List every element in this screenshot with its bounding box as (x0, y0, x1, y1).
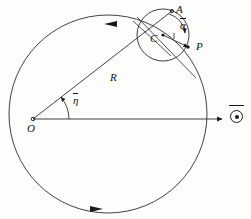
label-point-C: C (150, 33, 157, 44)
label-point-O: O (27, 123, 35, 134)
angle-eta-overbar-text: η (73, 95, 78, 106)
omega-vector-overbar (229, 105, 244, 106)
epicycle-radius-CP (163, 35, 188, 47)
label-radius-R: R (110, 72, 117, 83)
point-P-marker (186, 45, 189, 48)
geometry-figure: A C P R O α η (0, 0, 251, 219)
angle-alpha-overbar-text: α (180, 20, 186, 31)
figure-canvas (0, 0, 251, 219)
radius-line-OC (33, 11, 172, 119)
deferent-direction-arrow-bottom (90, 206, 103, 212)
label-point-A: A (176, 4, 183, 15)
label-point-P: P (196, 41, 203, 52)
point-C-marker (161, 33, 164, 36)
angle-eta-arc (61, 97, 69, 119)
label-angle-eta: η (73, 95, 78, 106)
deferent-circle (9, 15, 207, 213)
omega-out-of-page-icon (230, 110, 243, 123)
label-angle-alpha: α (180, 20, 186, 31)
deferent-direction-arrow-top (104, 21, 117, 27)
